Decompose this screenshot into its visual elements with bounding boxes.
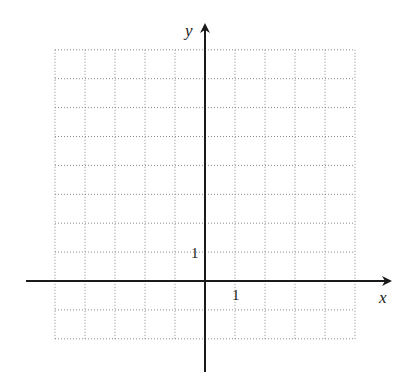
x-unit-tick-label: 1 xyxy=(232,287,240,303)
y-unit-tick-label: 1 xyxy=(191,245,199,261)
coordinate-plane: x y 1 1 xyxy=(0,0,398,385)
y-axis-label: y xyxy=(183,21,193,40)
x-axis-label: x xyxy=(378,288,387,307)
